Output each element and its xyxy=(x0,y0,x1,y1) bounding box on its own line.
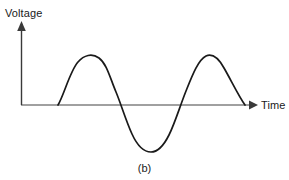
waveform-plot xyxy=(0,0,289,180)
x-axis-arrow-icon xyxy=(249,101,258,110)
y-axis-arrow-icon xyxy=(17,21,26,31)
figure-caption: (b) xyxy=(0,162,289,175)
waveform-figure: Voltage Time (b) xyxy=(0,0,289,180)
x-axis-label: Time xyxy=(261,99,285,111)
y-axis-label: Voltage xyxy=(5,7,42,19)
voltage-waveform-curve xyxy=(58,55,245,152)
